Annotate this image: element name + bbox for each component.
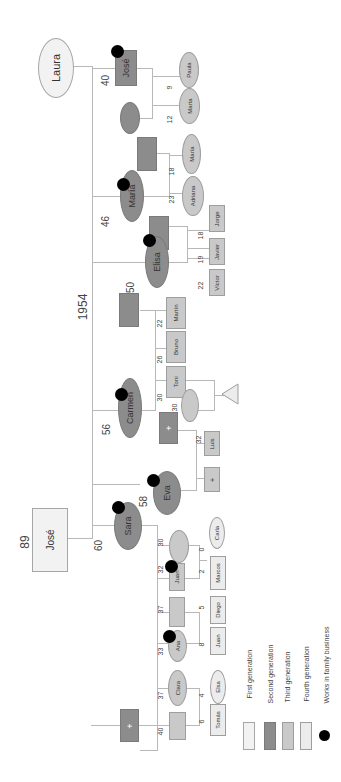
connector-line	[152, 76, 180, 77]
connector-line	[157, 578, 169, 579]
person-name: José	[45, 529, 56, 550]
person-name: Martín	[173, 304, 179, 321]
deceased-icon: +	[208, 477, 217, 482]
age-label: 22	[156, 320, 163, 328]
age-label: 30	[157, 539, 164, 547]
connector-line	[184, 612, 200, 613]
person-javier[interactable]: Javier	[209, 238, 225, 265]
age-label: 37	[157, 606, 164, 614]
person-name: Tomás	[215, 711, 221, 729]
person-jose-jr-spouse[interactable]	[120, 102, 140, 134]
age-label: 40	[100, 75, 111, 86]
person-name: Marta	[187, 98, 193, 113]
connector-line	[140, 750, 158, 751]
person-laura[interactable]: Laura	[38, 38, 74, 98]
person-luis[interactable]: Luis	[204, 431, 220, 456]
connector-line	[139, 118, 153, 119]
person-name: Eva	[162, 485, 172, 501]
connector-line	[157, 525, 158, 750]
person-maria-spouse[interactable]	[137, 137, 157, 171]
works-in-business-icon	[143, 234, 156, 247]
person-diego[interactable]: Diego	[210, 596, 226, 624]
person-jorge[interactable]: Jorge	[209, 205, 225, 232]
connector-line	[92, 196, 120, 197]
person-name: Marcos	[215, 563, 221, 583]
age-label: 23	[168, 196, 175, 204]
legend-works-in-business-icon	[319, 730, 330, 741]
legend-swatch-fourth	[300, 722, 312, 750]
person-jose-sr[interactable]: José	[32, 508, 68, 572]
works-in-business-icon	[115, 388, 128, 401]
connector-line	[157, 725, 169, 726]
person-toni-spouse[interactable]	[181, 389, 199, 422]
person-paula[interactable]: Paula	[179, 52, 199, 88]
person-elsa[interactable]: Elsa	[210, 670, 226, 704]
person-name: Paula	[186, 62, 192, 77]
person-adriana[interactable]: Adriana	[182, 176, 204, 216]
age-label: 18	[197, 232, 204, 240]
person-sara-spouse-deceased[interactable]: +	[120, 709, 139, 742]
connector-line	[177, 430, 197, 431]
age-label: 18	[168, 168, 175, 176]
person-juan-2[interactable]: Juan	[210, 627, 226, 655]
connector-line	[137, 68, 153, 69]
legend-label: Third generation	[284, 633, 291, 703]
age-label: 40	[157, 728, 164, 736]
connector-line	[74, 66, 92, 67]
person-clara[interactable]: Clara	[168, 670, 187, 706]
person-tomas-parent[interactable]	[169, 712, 186, 740]
age-label: 50	[125, 282, 136, 293]
person-name: Javier	[214, 243, 220, 259]
connector-line	[180, 490, 197, 491]
person-eva-child-deceased[interactable]: +	[204, 467, 220, 492]
works-in-business-icon	[147, 474, 160, 487]
age-label: 19	[197, 256, 204, 264]
person-carmen-spouse[interactable]	[119, 293, 139, 327]
person-eva-spouse[interactable]: +	[159, 412, 178, 444]
age-label: 22	[197, 282, 204, 290]
deceased-icon: +	[164, 425, 174, 430]
person-name: Ana	[175, 641, 181, 652]
legend-label: Fourth generation	[303, 626, 310, 702]
person-name: Clara	[175, 681, 181, 695]
legend-swatch-second	[264, 722, 276, 750]
person-tomas[interactable]: Tomás	[210, 704, 226, 736]
connector-line	[168, 226, 188, 227]
age-label: 5	[198, 606, 205, 610]
person-marta[interactable]: Marta	[179, 88, 200, 124]
person-bruno[interactable]: Bruno	[166, 331, 186, 363]
age-label: 0	[198, 548, 205, 552]
connector-line	[187, 226, 188, 262]
marriage-year: 1954	[76, 294, 90, 321]
person-victor[interactable]: Víctor	[209, 269, 225, 296]
person-carmen[interactable]: Carmen	[118, 378, 142, 438]
age-label: 56	[101, 424, 112, 435]
person-name: Adriana	[190, 186, 196, 207]
age-label: 32	[195, 436, 202, 444]
person-name: Luis	[209, 438, 215, 449]
main-trunk-line	[92, 66, 93, 539]
connector-line	[199, 560, 207, 561]
legend-swatch-first	[243, 722, 255, 750]
person-maria-2[interactable]: María	[182, 134, 201, 174]
connector-line	[184, 380, 214, 381]
person-carla[interactable]: Carla	[209, 517, 225, 549]
works-in-business-icon	[111, 45, 124, 58]
person-juan-spouse[interactable]	[169, 530, 189, 563]
person-diego-parent[interactable]	[169, 597, 185, 627]
age-label: 32	[157, 566, 164, 574]
connector-line	[92, 410, 118, 411]
works-in-business-icon	[112, 501, 125, 514]
person-name: Bruno	[173, 339, 179, 355]
age-label: 8	[198, 643, 205, 647]
connector-line	[144, 196, 170, 197]
age-label: 46	[100, 216, 111, 227]
legend-label: Second generation	[267, 624, 274, 704]
person-marcos[interactable]: Marcos	[210, 556, 226, 590]
person-name: María	[189, 146, 195, 161]
person-name: Diego	[215, 602, 221, 618]
person-name: Elisa	[152, 252, 162, 272]
person-name: Sara	[123, 516, 133, 535]
works-in-business-icon	[163, 630, 176, 643]
person-martin[interactable]: Martín	[166, 297, 186, 329]
